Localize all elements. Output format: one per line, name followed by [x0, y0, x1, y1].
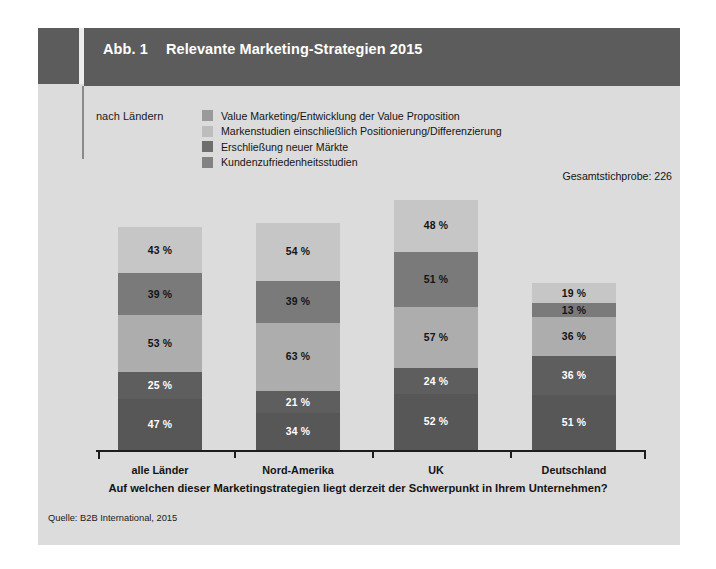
survey-question: Auf welchen dieser Marketingstrategien l… [0, 482, 716, 494]
bar-segment: 13 % [532, 303, 616, 317]
bar-segment: 51 % [394, 252, 478, 307]
bar-uk[interactable]: 48 %51 %57 %24 %52 % [394, 200, 478, 450]
figure-number: Abb. 1 [103, 41, 148, 57]
axis-tick [98, 450, 100, 459]
bar-segment-value: 47 % [148, 419, 172, 430]
bar-segment: 48 % [394, 200, 478, 252]
bar-segment-value: 34 % [286, 426, 310, 437]
figure-title: Relevante Marketing-Strategien 2015 [166, 41, 423, 57]
bar-segment-value: 52 % [424, 416, 448, 427]
legend-item-label: Value Marketing/Entwicklung der Value Pr… [221, 110, 460, 122]
axis-tick [234, 450, 236, 458]
bar-segment: 36 % [532, 356, 616, 395]
bar-deutschland[interactable]: 19 %13 %36 %36 %51 % [532, 283, 616, 450]
legend-swatch-icon [202, 141, 213, 152]
bar-segment-value: 36 % [562, 331, 586, 342]
page-title: Abb. 1Relevante Marketing-Strategien 201… [103, 41, 422, 57]
vertical-divider [82, 86, 84, 159]
x-axis-label: UK [428, 464, 444, 476]
x-axis-line [96, 450, 646, 452]
x-axis-label: Deutschland [542, 464, 607, 476]
bar-segment: 19 % [532, 283, 616, 303]
legend-item-label: Erschließung neuer Märkte [221, 141, 348, 153]
legend-item: Kundenzufriedenheitsstudien [202, 155, 502, 171]
bar-segment: 24 % [394, 368, 478, 394]
bar-segment-value: 19 % [562, 288, 586, 299]
bar-segment: 54 % [256, 223, 340, 281]
axis-tick [644, 450, 646, 459]
x-axis-label: Nord-Amerika [262, 464, 333, 476]
bar-segment: 39 % [118, 273, 202, 315]
bar-segment-value: 54 % [286, 246, 310, 257]
bar-segment: 39 % [256, 281, 340, 323]
bar-segment-value: 36 % [562, 370, 586, 381]
bar-segment-value: 48 % [424, 220, 448, 231]
bar-segment: 63 % [256, 323, 340, 391]
figure-subtitle: nach Ländern [96, 110, 163, 122]
bar-segment: 25 % [118, 372, 202, 399]
legend-item: Value Marketing/Entwicklung der Value Pr… [202, 108, 502, 124]
bar-segment-value: 24 % [424, 376, 448, 387]
bar-segment-value: 39 % [286, 296, 310, 307]
x-axis: alle LänderNord-AmerikaUKDeutschland [96, 450, 646, 460]
bar-segment: 34 % [256, 413, 340, 450]
chart-legend: Value Marketing/Entwicklung der Value Pr… [202, 108, 502, 170]
legend-item: Erschließung neuer Märkte [202, 139, 502, 155]
bar-segment: 57 % [394, 307, 478, 368]
bar-segment-value: 51 % [424, 274, 448, 285]
source-note: Quelle: B2B International, 2015 [48, 513, 177, 523]
legend-swatch-icon [202, 157, 213, 168]
bar-segment-value: 25 % [148, 380, 172, 391]
bar-segment-value: 13 % [562, 305, 586, 316]
bar-segment: 21 % [256, 391, 340, 414]
legend-swatch-icon [202, 126, 213, 137]
bar-segment: 43 % [118, 227, 202, 273]
legend-item-label: Markenstudien einschließlich Positionier… [221, 125, 502, 137]
bar-segment-value: 21 % [286, 397, 310, 408]
bar-segment: 36 % [532, 317, 616, 356]
bar-alle-l-nder[interactable]: 43 %39 %53 %25 %47 % [118, 227, 202, 450]
bar-segment: 52 % [394, 394, 478, 450]
bar-segment-value: 51 % [562, 417, 586, 428]
legend-item: Markenstudien einschließlich Positionier… [202, 124, 502, 140]
legend-item-label: Kundenzufriedenheitsstudien [221, 156, 358, 168]
bar-segment-value: 57 % [424, 332, 448, 343]
bar-segment-value: 43 % [148, 245, 172, 256]
axis-tick [510, 450, 512, 458]
bar-segment-value: 53 % [148, 338, 172, 349]
x-axis-label: alle Länder [131, 464, 188, 476]
legend-swatch-icon [202, 110, 213, 121]
axis-tick [372, 450, 374, 458]
stacked-bar-plot: 43 %39 %53 %25 %47 %54 %39 %63 %21 %34 %… [96, 196, 642, 450]
bar-segment: 53 % [118, 315, 202, 372]
bar-segment: 51 % [532, 395, 616, 450]
bar-segment-value: 39 % [148, 289, 172, 300]
bar-nord-amerika[interactable]: 54 %39 %63 %21 %34 % [256, 223, 340, 450]
bar-segment: 47 % [118, 399, 202, 450]
bar-segment-value: 63 % [286, 351, 310, 362]
figure-header-bar: Abb. 1Relevante Marketing-Strategien 201… [84, 28, 680, 86]
sample-size-label: Gesamtstichprobe: 226 [562, 170, 672, 182]
corner-decoration-block [38, 28, 79, 84]
